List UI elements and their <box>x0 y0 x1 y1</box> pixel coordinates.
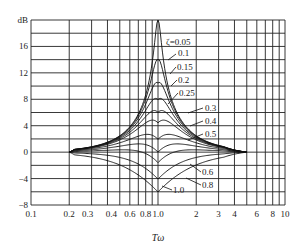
y-tick-label: 12 <box>19 68 28 78</box>
leader-line <box>186 178 201 185</box>
y-unit-label: dB <box>17 15 28 25</box>
curve-label: ζ=0.05 <box>166 37 191 47</box>
y-tick-label: 0 <box>24 147 29 157</box>
curve-label: 0.6 <box>202 167 214 177</box>
x-tick-label: 0.1 <box>25 209 36 219</box>
y-tick-label: −8 <box>18 200 28 210</box>
curve-label: 0.25 <box>179 88 195 98</box>
x-tick-label: 0.3 <box>82 209 94 219</box>
y-tick-label: −4 <box>18 174 28 184</box>
x-tick-label: 1.0 <box>152 209 164 219</box>
x-tick-label: 0.4 <box>106 209 118 219</box>
x-tick-label: 0.2 <box>64 209 75 219</box>
curve-label: 0.1 <box>178 48 189 58</box>
bode-error-chart: 0.10.20.30.40.60.81.023468101612840−4−8 … <box>0 0 303 249</box>
curve-label: 0.2 <box>178 75 189 85</box>
leader-line <box>168 54 176 60</box>
curve-label: 0.3 <box>205 103 217 113</box>
curve-label: 0.5 <box>205 129 217 139</box>
x-tick-label: 8 <box>270 209 275 219</box>
y-tick-label: 4 <box>24 121 29 131</box>
curve-label: 1.0 <box>173 185 185 195</box>
curve-label: 0.4 <box>205 116 217 126</box>
x-axis-label: Tω <box>152 232 165 243</box>
x-tick-label: 6 <box>255 209 260 219</box>
y-tick-label: 8 <box>24 94 29 104</box>
x-tick-label: 0.6 <box>124 209 136 219</box>
leader-line <box>162 186 172 190</box>
y-tick-label: 16 <box>19 41 29 51</box>
curve-label: 0.8 <box>202 180 214 190</box>
x-tick-label: 4 <box>232 209 237 219</box>
x-tick-label: 10 <box>281 209 291 219</box>
x-tick-label: 2 <box>194 209 199 219</box>
x-tick-label: 0.8 <box>140 209 152 219</box>
x-tick-label: 3 <box>216 209 221 219</box>
curve-label: 0.15 <box>177 62 193 72</box>
leader-line <box>171 80 177 86</box>
